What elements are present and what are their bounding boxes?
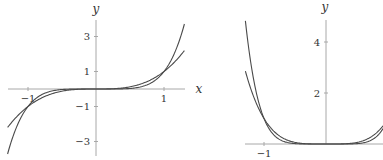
x-tick-label: −1 — [257, 148, 272, 159]
x-ticks: −1 — [257, 142, 272, 159]
chart-canvas: −11 31−1−3 x y −1 42 y — [0, 0, 383, 160]
y-tick-label: 4 — [314, 37, 320, 48]
y-tick-label: 3 — [84, 31, 90, 42]
curve-x-fourth — [245, 71, 383, 144]
y-tick-label: 2 — [314, 88, 320, 99]
chart-odd-powers: −11 31−1−3 x y — [8, 2, 203, 156]
y-axis-label: y — [92, 2, 100, 16]
x-axis-label: x — [196, 82, 203, 96]
x-tick-label: 1 — [161, 93, 167, 104]
y-tick-label: −3 — [75, 136, 90, 147]
y-tick-label: −1 — [75, 101, 90, 112]
chart-even-powers: −1 42 y — [245, 0, 383, 159]
y-tick-label: 1 — [84, 66, 90, 77]
y-axis-label: y — [321, 0, 329, 14]
